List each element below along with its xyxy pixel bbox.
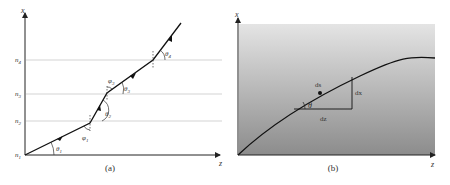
dx-label: dx xyxy=(355,89,363,97)
figure: x z n1 n2 n3 n4 θ1 φ1 θ2 φ3 θ3 θ4 (a) xyxy=(0,0,450,185)
z-axis-label: z xyxy=(218,159,223,168)
arc-theta1 xyxy=(51,142,54,155)
panel-a: x z n1 n2 n3 n4 θ1 φ1 θ2 φ3 θ3 θ4 (a) xyxy=(15,6,223,173)
panel-b: x z θ ds dx dz (b) xyxy=(234,10,435,173)
angle-theta4: θ4 xyxy=(165,50,171,59)
gradient-medium xyxy=(239,24,435,155)
x-axis-label: x xyxy=(234,10,239,19)
layer-label-n2: n2 xyxy=(15,117,22,126)
angle-theta3: θ3 xyxy=(124,85,130,94)
angle-phi3: φ3 xyxy=(108,77,115,86)
ray-path xyxy=(25,23,181,155)
caption-b: (b) xyxy=(328,163,339,173)
ds-label: ds xyxy=(315,81,322,89)
theta-label: θ xyxy=(308,101,312,110)
z-axis-label: z xyxy=(430,160,435,169)
arc-phi1 xyxy=(84,126,90,130)
ds-point xyxy=(318,91,322,95)
caption-a: (a) xyxy=(105,163,115,173)
arc-phi3 xyxy=(107,87,112,89)
angle-phi1: φ1 xyxy=(82,134,88,143)
angle-theta1: θ1 xyxy=(56,145,62,154)
angle-theta2: θ2 xyxy=(105,110,111,119)
x-axis-label: x xyxy=(20,6,25,15)
layer-label-n3: n3 xyxy=(15,90,22,99)
dz-label: dz xyxy=(320,115,327,123)
layer-label-n1: n1 xyxy=(15,151,21,160)
layer-label-n4: n4 xyxy=(15,56,22,65)
